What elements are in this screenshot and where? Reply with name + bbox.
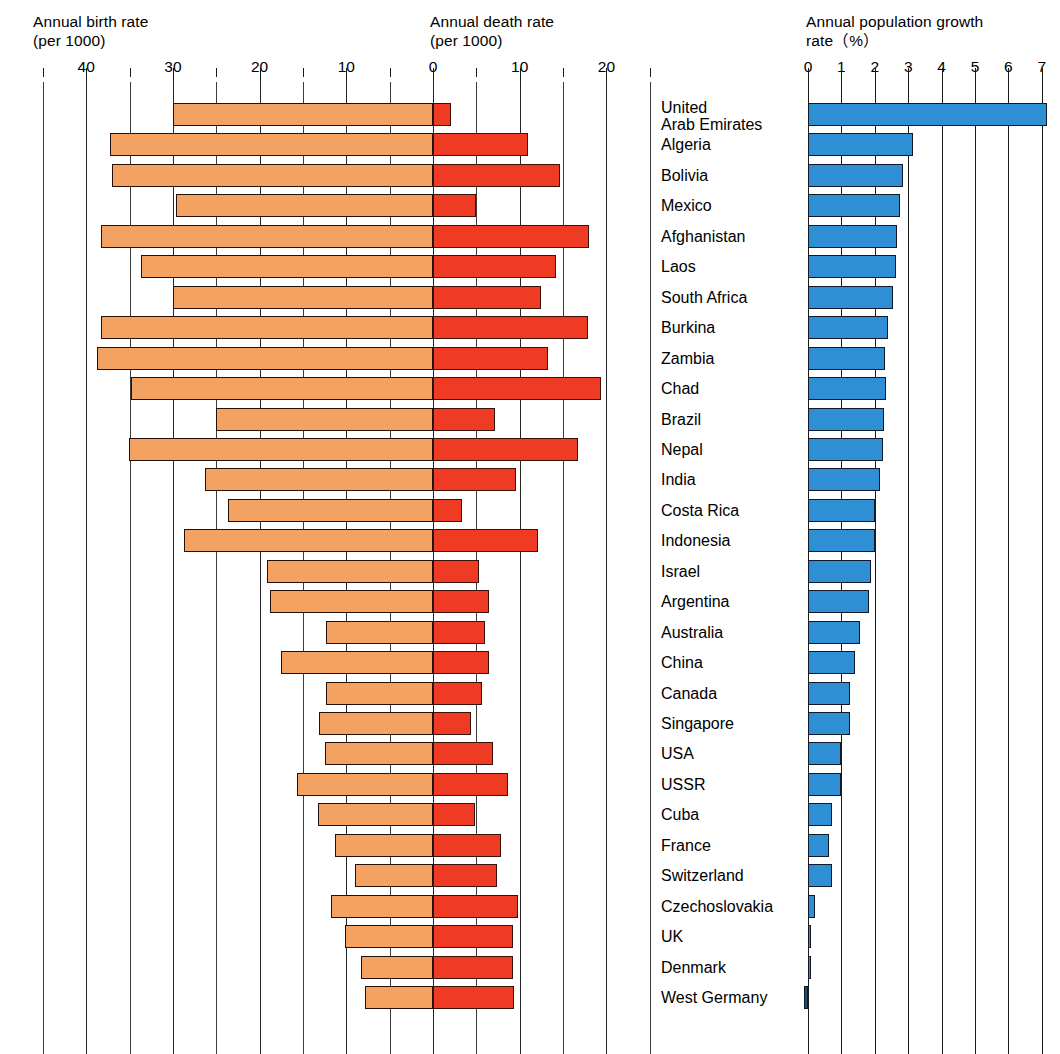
birth-rate-bar [173, 103, 433, 126]
axis-tick [942, 68, 943, 82]
axis-tick [173, 68, 174, 82]
country-label: USSR [661, 776, 705, 793]
birth-rate-bar [318, 803, 433, 826]
birth-rate-bar [228, 499, 433, 522]
axis-tick [520, 68, 521, 82]
death-rate-bar [433, 286, 541, 309]
axis-tick [216, 68, 217, 77]
growth-rate-bar [808, 377, 886, 400]
birth-rate-bar [97, 347, 433, 370]
axis-tick [875, 68, 876, 82]
country-label: Denmark [661, 959, 726, 976]
population-chart-page: Annual birth rate (per 1000) Annual deat… [0, 0, 1060, 1054]
growth-rate-bar [808, 773, 841, 796]
country-label: Laos [661, 258, 696, 275]
axis-tick [390, 68, 391, 77]
growth-rate-bar [808, 621, 860, 644]
birth-rate-bar [184, 529, 433, 552]
axis-tick [130, 68, 131, 77]
growth-rate-bar [808, 103, 1047, 126]
death-rate-bar [433, 225, 589, 248]
growth-rate-bar [808, 834, 829, 857]
birth-rate-bar [365, 986, 433, 1009]
country-label: Chad [661, 380, 699, 397]
death-rate-heading: Annual death rate (per 1000) [430, 12, 554, 51]
country-label: France [661, 837, 711, 854]
growth-rate-bar [808, 956, 811, 979]
growth-rate-bar [808, 864, 832, 887]
birth-rate-bar [267, 560, 433, 583]
country-label: United Arab Emirates [661, 99, 762, 134]
death-rate-bar [433, 621, 485, 644]
country-label: Singapore [661, 715, 734, 732]
country-label: Zambia [661, 350, 714, 367]
death-rate-bar [433, 133, 528, 156]
country-label: West Germany [661, 989, 767, 1006]
growth-rate-bar [808, 651, 855, 674]
death-rate-bar [433, 499, 462, 522]
country-label: Australia [661, 624, 723, 641]
death-rate-bar [433, 986, 514, 1009]
growth-rate-bar [808, 529, 875, 552]
axis-tick [808, 68, 809, 82]
growth-rate-bar [808, 468, 880, 491]
growth-rate-bar [808, 803, 832, 826]
growth-rate-bar [808, 225, 897, 248]
growth-rate-bar [808, 590, 869, 613]
death-rate-bar [433, 255, 556, 278]
axis-tick [303, 68, 304, 77]
birth-rate-bar [129, 438, 433, 461]
growth-rate-bar [808, 164, 903, 187]
death-rate-bar [433, 560, 479, 583]
birth-rate-bar [361, 956, 433, 979]
death-rate-bar [433, 742, 493, 765]
birth-death-plot [0, 82, 660, 1054]
country-label: Czechoslovakia [661, 898, 773, 915]
growth-rate-bar [808, 316, 888, 339]
growth-rate-bar [808, 560, 871, 583]
birth-rate-bar [216, 408, 433, 431]
axis-tick [908, 68, 909, 82]
growth-rate-bar [808, 255, 896, 278]
axis-tick [260, 68, 261, 82]
growth-rate-bar [808, 347, 885, 370]
death-rate-bar [433, 834, 501, 857]
death-rate-bar [433, 651, 489, 674]
death-rate-bar [433, 468, 516, 491]
axis-tick [433, 68, 434, 82]
birth-rate-bar [110, 133, 433, 156]
death-rate-bar [433, 164, 560, 187]
birth-rate-bar [326, 621, 433, 644]
death-rate-bar [433, 529, 538, 552]
country-label: Israel [661, 563, 700, 580]
death-rate-bar [433, 682, 482, 705]
birth-rate-bar [131, 377, 433, 400]
country-label: India [661, 471, 696, 488]
axis-tick [476, 68, 477, 77]
death-rate-bar [433, 895, 518, 918]
birth-rate-bar [335, 834, 433, 857]
birth-rate-bar [205, 468, 433, 491]
birth-rate-bar [355, 864, 433, 887]
death-rate-bar [433, 590, 489, 613]
axis-tick [841, 68, 842, 82]
death-rate-bar [433, 925, 513, 948]
country-label: Afghanistan [661, 228, 746, 245]
birth-rate-bar [319, 712, 433, 735]
death-rate-bar [433, 408, 495, 431]
axis-tick [43, 68, 44, 77]
country-label: Switzerland [661, 867, 744, 884]
birth-rate-bar [345, 925, 433, 948]
birth-rate-heading: Annual birth rate (per 1000) [33, 12, 148, 51]
country-label: Mexico [661, 197, 712, 214]
growth-bars [800, 82, 1060, 1054]
country-label: Costa Rica [661, 502, 739, 519]
death-rate-bar [433, 316, 588, 339]
birth-rate-bar [326, 682, 433, 705]
death-rate-bar [433, 956, 513, 979]
death-rate-bar [433, 773, 508, 796]
growth-rate-bar [808, 133, 913, 156]
axis-tick [606, 68, 607, 82]
country-label: Canada [661, 685, 717, 702]
birth-rate-bar [141, 255, 433, 278]
